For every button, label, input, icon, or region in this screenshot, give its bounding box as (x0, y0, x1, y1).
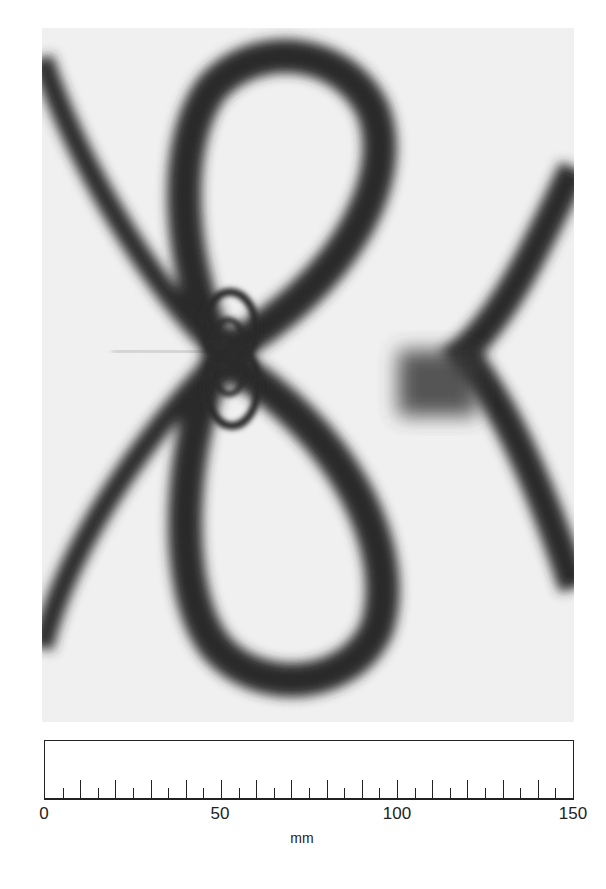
scale-tick (274, 788, 275, 798)
scale-tick (80, 780, 81, 798)
scale-tick (291, 780, 292, 798)
scale-unit-label: mm (290, 830, 313, 846)
scale-tick (98, 788, 99, 798)
scale-tick (503, 780, 504, 798)
scale-tick (256, 780, 257, 798)
scale-label-100: 100 (383, 804, 411, 824)
scale-tick (379, 788, 380, 798)
scale-tick (450, 788, 451, 798)
scale-tick (467, 780, 468, 798)
scale-tick (133, 788, 134, 798)
scale-tick (309, 788, 310, 798)
scale-tick (221, 780, 222, 798)
scale-tick (115, 780, 116, 798)
scale-tick (63, 788, 64, 798)
scale-tick (415, 788, 416, 798)
scale-tick (239, 788, 240, 798)
scale-tick (520, 788, 521, 798)
scale-tick (397, 780, 398, 798)
scale-label-50: 50 (211, 804, 230, 824)
scale-tick (362, 780, 363, 798)
scale-tick (168, 788, 169, 798)
scale-tick (555, 788, 556, 798)
fringe-pattern-photo (42, 28, 574, 722)
scale-tick (186, 780, 187, 798)
scale-label-0: 0 (39, 804, 48, 824)
scale-bar (44, 740, 574, 800)
scale-tick (344, 788, 345, 798)
scale-tick (151, 780, 152, 798)
scale-tick (203, 788, 204, 798)
scale-tick (432, 780, 433, 798)
scale-tick (538, 780, 539, 798)
scale-label-150: 150 (559, 804, 587, 824)
scale-tick (485, 788, 486, 798)
scale-tick (327, 780, 328, 798)
